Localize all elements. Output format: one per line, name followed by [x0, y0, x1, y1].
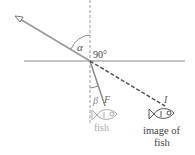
fish-caption: fish: [94, 122, 109, 133]
fish-image-icon: [149, 109, 174, 119]
fish-point-label: F: [103, 94, 111, 105]
arrowhead-icon: [15, 16, 23, 22]
image-point-label: I: [163, 94, 168, 105]
right-angle-label: 90°: [93, 49, 107, 60]
beta-angle-arc: [90, 86, 98, 88]
beta-label: β: [92, 95, 98, 106]
incident-ray: [20, 19, 90, 61]
image-ray: [90, 61, 165, 106]
alpha-label: α: [77, 41, 83, 53]
image-caption-line2: fish: [154, 137, 171, 148]
image-caption-line1: image of: [143, 125, 181, 136]
refraction-diagram: α 90° β F I fish image of fish: [0, 0, 195, 155]
fish-icon: [92, 110, 117, 120]
